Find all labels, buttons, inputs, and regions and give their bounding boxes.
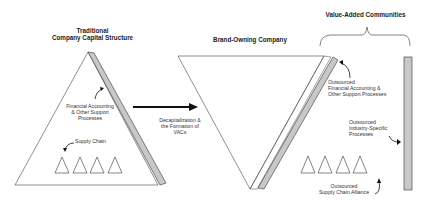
outsourced-finance-bar bbox=[258, 57, 338, 189]
industry-curved-arrow bbox=[389, 136, 398, 142]
traditional-title-line2: Company Capital Structure bbox=[40, 34, 145, 41]
finance-curved-arrow bbox=[341, 63, 350, 78]
traditional-title: Traditional Company Capital Structure bbox=[40, 27, 145, 41]
fin-line3: Other Support Processes bbox=[328, 92, 386, 98]
vac-title: Value-Added Communities bbox=[318, 11, 413, 18]
supply-chain-label: Supply Chain bbox=[75, 139, 106, 145]
brand-owning-title: Brand-Owning Company bbox=[205, 36, 295, 43]
supply-chain-triangles-left bbox=[55, 157, 122, 173]
transition-label: Decapitalization & the Formation of VACs bbox=[150, 118, 210, 136]
outsourced-supply-alliance-label: Outsourced Supply Chain Alliance bbox=[310, 184, 378, 196]
sca-line2: Supply Chain Alliance bbox=[310, 190, 378, 196]
brand-owning-outline bbox=[250, 56, 331, 189]
outsourced-industry-bar bbox=[404, 57, 412, 190]
traditional-title-line1: Traditional bbox=[40, 27, 145, 34]
supply-chain-triangles-right bbox=[301, 156, 367, 173]
support-processes-label: Financial Accounting & Other Support Pro… bbox=[60, 104, 120, 122]
ind-line3: Processes bbox=[349, 132, 387, 138]
vac-brace bbox=[320, 27, 410, 46]
support-line3: Processes bbox=[60, 116, 120, 122]
outsourced-finance-label: Outsourced Financial Accounting & Other … bbox=[328, 80, 386, 98]
transition-line3: VACs bbox=[150, 130, 210, 136]
outsourced-industry-label: Outsourced Industry-Specific Processes bbox=[349, 120, 387, 138]
